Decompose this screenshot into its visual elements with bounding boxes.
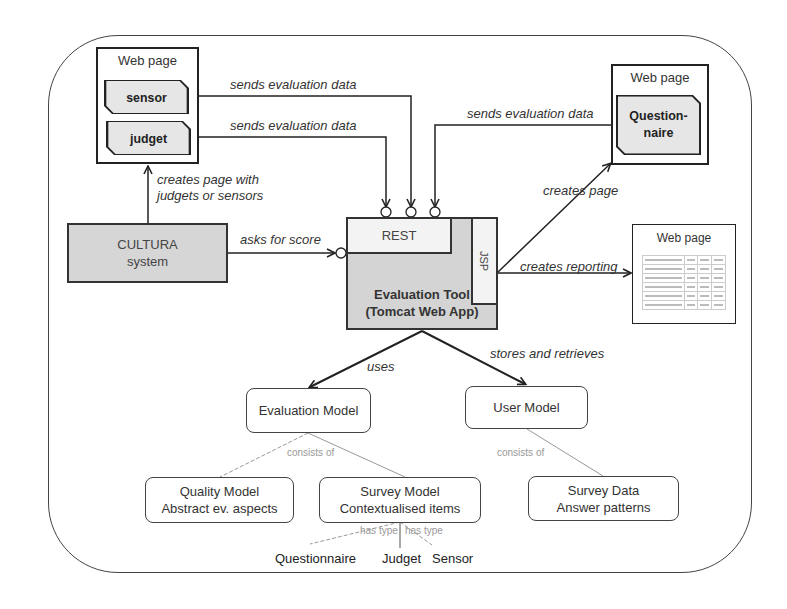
edge-label-creates-reporting: creates reporting: [520, 259, 618, 274]
evaluation-tool-box: REST JSP Evaluation Tool (Tomcat Web App…: [346, 217, 498, 330]
right-webpage-title: Web page: [613, 70, 707, 85]
rest-interface: REST: [348, 219, 452, 254]
left-webpage-title: Web page: [98, 53, 197, 68]
questionnaire-widget: Question- naire: [618, 96, 700, 154]
cultura-line2: system: [127, 253, 168, 270]
edge-label-uses: uses: [367, 359, 394, 374]
cultura-line1: CULTURA: [117, 236, 177, 253]
quality-model-line1: Quality Model: [180, 483, 259, 500]
survey-data-line2: Answer patterns: [557, 499, 651, 516]
edge-label-stores-and-retrieves: stores and retrieves: [490, 346, 604, 361]
quality-model-line2: Abstract ev. aspects: [161, 500, 277, 517]
edge-label-eval-consists-of: consists of: [287, 447, 334, 458]
cultura-system-box: CULTURA system: [67, 223, 228, 283]
sensor-widget: sensor: [106, 81, 187, 113]
report-webpage: Web page: [632, 224, 736, 324]
survey-data-line1: Survey Data: [568, 482, 640, 499]
user-model-box: User Model: [465, 386, 588, 429]
user-model-label: User Model: [493, 399, 559, 416]
type-questionnaire: Questionnaire: [275, 551, 356, 566]
survey-model-box: Survey Model Contextualised items: [319, 477, 481, 523]
evaluation-tool-line1: Evaluation Tool: [348, 286, 496, 303]
edge-label-asks-for-score: asks for score: [240, 232, 321, 247]
report-table: [642, 255, 726, 310]
jsp-label: JSP: [479, 251, 491, 271]
edge-label-creates-page-with: creates page with: [157, 172, 259, 187]
edge-label-sensor: sends evaluation data: [230, 77, 356, 92]
type-sensor: Sensor: [432, 551, 473, 566]
evaluation-tool-line2: (Tomcat Web App): [348, 303, 496, 320]
report-webpage-title: Web page: [633, 231, 735, 245]
survey-model-line1: Survey Model: [360, 483, 439, 500]
judget-widget: judget: [108, 122, 189, 154]
edge-label-has-type-left: has type: [360, 525, 398, 536]
edge-label-judget: sends evaluation data: [230, 118, 356, 133]
edge-label-has-type-right: has type: [405, 525, 443, 536]
evaluation-model-label: Evaluation Model: [259, 402, 359, 419]
edge-label-creates-page: creates page: [543, 183, 618, 198]
questionnaire-line1: Question-: [629, 108, 687, 125]
evaluation-tool-title: Evaluation Tool (Tomcat Web App): [348, 286, 496, 320]
survey-model-line2: Contextualised items: [340, 500, 461, 517]
edge-label-judgets-or-sensors: judgets or sensors: [157, 188, 263, 203]
survey-data-box: Survey Data Answer patterns: [528, 476, 679, 521]
judget-widget-label: judget: [130, 131, 167, 145]
edge-label-user-consists-of: consists of: [497, 447, 544, 458]
rest-label: REST: [382, 228, 417, 243]
sensor-widget-label: sensor: [126, 90, 167, 104]
evaluation-model-box: Evaluation Model: [246, 388, 371, 433]
quality-model-box: Quality Model Abstract ev. aspects: [145, 477, 294, 523]
type-judget: Judget: [382, 551, 421, 566]
questionnaire-line2: naire: [644, 125, 674, 142]
edge-label-questionnaire: sends evaluation data: [467, 106, 593, 121]
